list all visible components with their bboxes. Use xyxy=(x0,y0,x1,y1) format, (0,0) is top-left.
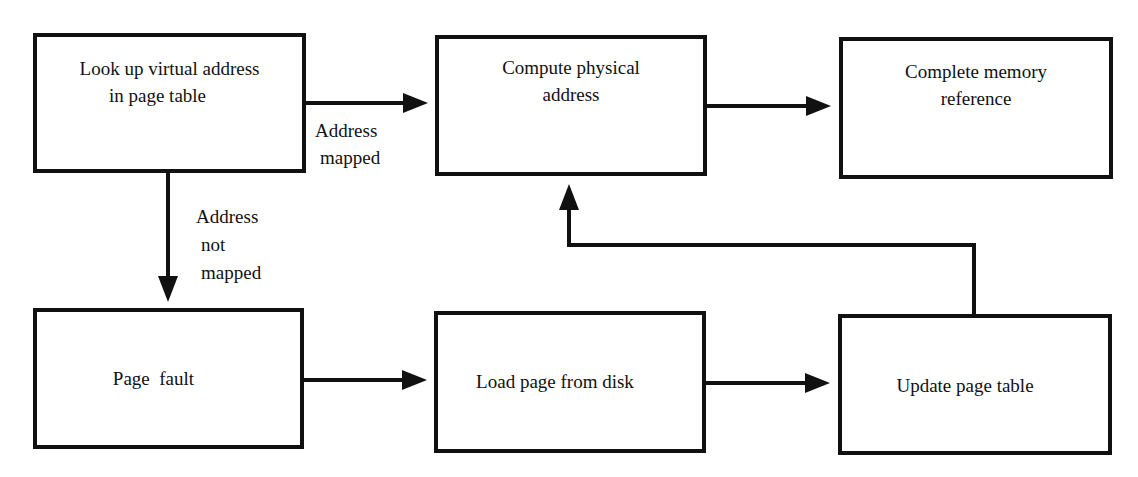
box-lookup-line-2: in page table xyxy=(37,82,302,109)
box-complete-line-1: Complete memory xyxy=(843,58,1109,85)
box-update-text: Update page table xyxy=(842,372,1108,399)
box-load-line-1: Load page from disk xyxy=(438,368,672,395)
box-lookup-line-1: Look up virtual address xyxy=(37,55,302,82)
box-compute-line-2: address xyxy=(439,81,703,108)
box-complete-memory-reference: Complete memory reference xyxy=(839,37,1113,179)
box-update-line-1: Update page table xyxy=(842,372,1088,399)
box-lookup-virtual-address: Look up virtual address in page table xyxy=(33,33,306,173)
box-compute-text: Compute physical address xyxy=(439,54,703,108)
box-load-text: Load page from disk xyxy=(438,368,702,395)
box-complete-line-2: reference xyxy=(843,85,1109,112)
arrowhead-icon xyxy=(559,184,579,210)
edge-label-address-not-mapped: Address not mapped xyxy=(196,203,261,287)
box-compute-line-1: Compute physical xyxy=(439,54,703,81)
box-load-page-from-disk: Load page from disk xyxy=(434,311,706,453)
edge-label-address-mapped: Address mapped xyxy=(315,117,380,171)
arrowhead-icon xyxy=(806,96,831,116)
arrowhead-icon xyxy=(158,276,178,302)
box-fault-line-1: Page fault xyxy=(37,365,270,392)
edge-label-line: Address xyxy=(315,117,380,144)
arrowhead-icon xyxy=(805,373,830,393)
arrowhead-icon xyxy=(402,370,427,390)
edge-label-line: Address xyxy=(196,203,261,231)
box-update-page-table: Update page table xyxy=(838,314,1112,455)
arrowhead-icon xyxy=(403,93,428,113)
edge-label-line: not xyxy=(196,231,261,259)
box-page-fault: Page fault xyxy=(33,308,304,449)
arrow-update-to-compute xyxy=(569,208,974,314)
box-lookup-text: Look up virtual address in page table xyxy=(37,55,302,109)
box-complete-text: Complete memory reference xyxy=(843,58,1109,112)
edge-label-line: mapped xyxy=(315,144,380,171)
edge-label-line: mapped xyxy=(196,259,261,287)
box-compute-physical-address: Compute physical address xyxy=(435,35,707,176)
box-fault-text: Page fault xyxy=(37,365,300,392)
